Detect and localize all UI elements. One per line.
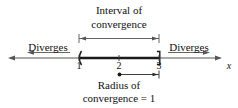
interval-title-line1: Interval of bbox=[96, 5, 142, 17]
radius-arrowhead-icon bbox=[153, 73, 159, 77]
radius-caption-line1: Radius of bbox=[98, 80, 140, 92]
diverges-label-right: Diverges bbox=[169, 42, 209, 54]
tick-label-2: 2 bbox=[117, 61, 122, 72]
tick-label-3: 3 bbox=[157, 61, 162, 72]
radius-caption-line2: convergence = 1 bbox=[83, 93, 156, 105]
interval-of-convergence-figure: Interval of convergence Diverges Diverge… bbox=[0, 0, 238, 108]
tick-label-1: 1 bbox=[77, 61, 82, 72]
axis-arrow-left-icon bbox=[8, 55, 15, 60]
axis-variable-label: x bbox=[227, 61, 231, 72]
interval-bracket-left-arrowhead-icon bbox=[80, 37, 86, 41]
diverges-label-left: Diverges bbox=[28, 42, 68, 54]
interval-title-line2: convergence bbox=[91, 19, 146, 31]
radius-center-dot bbox=[118, 73, 122, 77]
axis-arrow-right-icon bbox=[215, 55, 222, 60]
interval-bracket-right-arrowhead-icon bbox=[152, 37, 158, 41]
